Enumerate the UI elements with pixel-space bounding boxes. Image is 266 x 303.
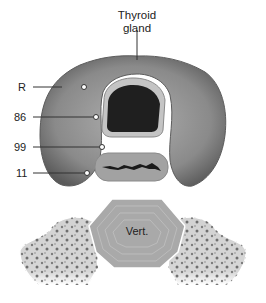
label-99: 99 xyxy=(14,141,26,153)
marker-86 xyxy=(94,115,99,120)
anatomy-illustration xyxy=(0,0,266,303)
esophagus xyxy=(95,153,168,181)
label-11: 11 xyxy=(16,167,27,179)
label-R: R xyxy=(18,81,26,93)
title-line-2: gland xyxy=(107,22,167,35)
thyroid-cross-section-diagram: Thyroid gland R 86 99 11 Vert. xyxy=(0,0,266,303)
marker-99 xyxy=(100,145,105,150)
vertebra-label: Vert. xyxy=(112,225,162,237)
thyroid-gland-title: Thyroid gland xyxy=(107,9,167,35)
trachea xyxy=(102,78,165,137)
marker-R xyxy=(82,85,87,90)
label-86: 86 xyxy=(14,111,26,123)
title-line-1: Thyroid xyxy=(107,9,167,22)
marker-11 xyxy=(85,171,90,176)
